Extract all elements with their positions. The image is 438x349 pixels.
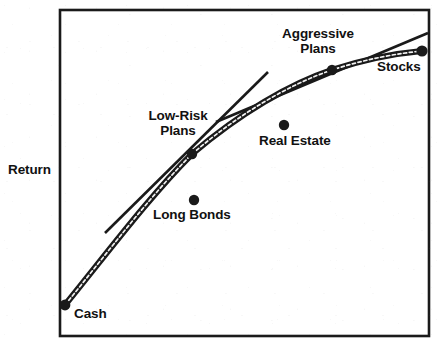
point-label-aggressive-plans-line1: Aggressive — [282, 26, 354, 41]
point-label-low-risk-plans-line1: Low-Risk — [148, 108, 207, 123]
data-point-low-risk-plans[interactable] — [187, 149, 197, 159]
axis-label-return: Return — [8, 163, 51, 177]
point-label-low-risk-plans-line2: Plans — [160, 123, 196, 138]
point-label-long-bonds: Long Bonds — [153, 208, 231, 222]
frontier-curve-highlight — [65, 51, 422, 305]
point-label-stocks: Stocks — [377, 60, 421, 74]
data-point-stocks[interactable] — [416, 45, 427, 56]
data-point-long-bonds[interactable] — [189, 195, 199, 205]
point-label-aggressive-plans: Aggressive Plans — [275, 27, 361, 56]
point-label-low-risk-plans: Low-Risk Plans — [140, 109, 216, 138]
risk-return-chart: Return Cash Long Bonds Low-Risk Plans Re… — [0, 0, 438, 349]
data-point-real-estate[interactable] — [279, 120, 289, 130]
frontier-curve — [65, 51, 422, 305]
point-label-real-estate: Real Estate — [259, 134, 331, 148]
data-point-aggressive-plans[interactable] — [327, 65, 337, 75]
point-label-cash: Cash — [74, 307, 107, 321]
chart-canvas — [0, 0, 438, 349]
point-label-aggressive-plans-line2: Plans — [300, 41, 336, 56]
data-point-cash[interactable] — [60, 300, 71, 311]
